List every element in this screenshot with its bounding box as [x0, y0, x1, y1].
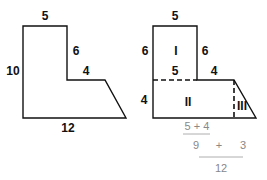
region-one-label: I	[174, 44, 177, 58]
label-inner-vertical: 6	[73, 44, 80, 58]
label-top: 5	[172, 9, 179, 23]
l-shape-outline	[23, 26, 126, 118]
region-two-label: II	[185, 95, 192, 109]
region-three-label: III	[237, 99, 247, 113]
calc-line-2-right: 3	[240, 139, 246, 151]
label-top: 5	[42, 9, 49, 23]
label-left: 10	[6, 64, 20, 78]
label-inner-horizontal: 4	[83, 64, 90, 78]
label-left-lower: 4	[141, 93, 148, 107]
calc-line-1: 5 + 4	[185, 120, 210, 132]
label-step: 4	[211, 64, 218, 78]
label-bottom: 12	[61, 121, 75, 135]
calc-line-2-left: 9	[193, 139, 199, 151]
label-left-upper: 6	[142, 44, 149, 58]
label-divider: 5	[172, 64, 179, 78]
calc-line-2-op: +	[216, 139, 222, 151]
composite-shape-diagram: 5 10 6 4 12 5 6 6 5 4 4 I II III 5 + 4 9…	[0, 0, 267, 180]
label-right-upper: 6	[202, 44, 209, 58]
calc-line-3: 12	[215, 162, 227, 174]
right-figure: 5 6 6 5 4 4 I II III	[141, 9, 256, 118]
left-figure: 5 10 6 4 12	[6, 9, 126, 135]
length-calculation: 5 + 4 9 + 3 12	[183, 120, 246, 174]
